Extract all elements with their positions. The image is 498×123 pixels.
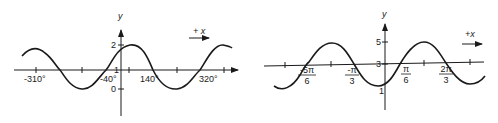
svg-text:-5π: -5π — [300, 65, 314, 75]
svg-text:2π: 2π — [440, 64, 451, 74]
left-y-label-2: 2 — [111, 40, 116, 50]
svg-text:π: π — [403, 64, 409, 74]
figure: y + x -310° -40° 140° 320° 2 1 0 y +x — [0, 0, 498, 123]
right-y-label-5: 5 — [376, 37, 381, 47]
left-y-label-0: 0 — [111, 84, 116, 94]
right-y-label-3: 3 — [376, 59, 381, 69]
right-x-label-neg5pi-6: -5π 6 — [298, 65, 316, 86]
left-x-label-140: 140° — [140, 74, 159, 84]
left-y-axis-label: y — [117, 11, 123, 21]
left-graph: y + x -310° -40° 140° 320° 2 1 0 — [14, 11, 238, 116]
svg-text:6: 6 — [304, 76, 309, 86]
right-x-label-pi-6: π 6 — [401, 64, 411, 85]
left-x-label-320: 320° — [199, 74, 218, 84]
left-direction-label: + x — [193, 26, 206, 36]
right-y-label-1: 1 — [379, 86, 384, 96]
right-direction-label: +x — [465, 29, 475, 39]
left-x-label-neg310: -310° — [24, 74, 46, 84]
left-y-label-1: 1 — [114, 65, 119, 75]
left-x-label-neg40: -40° — [100, 74, 117, 84]
right-graph: y +x 5 3 1 -5π 6 -π 3 π 6 2π 3 — [264, 9, 485, 110]
right-x-label-2pi-3: 2π 3 — [439, 64, 453, 85]
svg-text:-π: -π — [347, 65, 356, 75]
svg-text:6: 6 — [403, 75, 408, 85]
svg-text:3: 3 — [349, 76, 354, 86]
right-y-axis-label: y — [381, 9, 387, 19]
svg-text:3: 3 — [443, 75, 448, 85]
